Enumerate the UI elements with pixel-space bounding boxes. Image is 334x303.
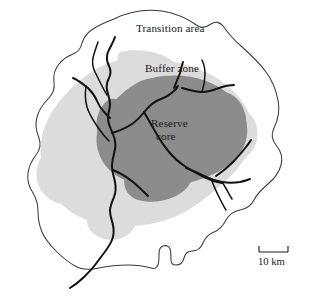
scale-bar-label: 10 km [258,256,286,267]
transition-area-label: Transition area [136,22,205,34]
map-canvas: Transition area Buffer zone Reserve core… [0,0,334,303]
reserve-core-label-line2: core [156,130,176,142]
southeast-lower-branch [222,182,232,199]
reserve-core-label-line1: Reserve [151,117,188,129]
scale-bar: 10 km [258,246,288,267]
biosphere-reserve-map: Transition area Buffer zone Reserve core… [0,0,334,303]
scale-bar-rule [259,246,288,252]
buffer-zone-label: Buffer zone [145,62,199,74]
